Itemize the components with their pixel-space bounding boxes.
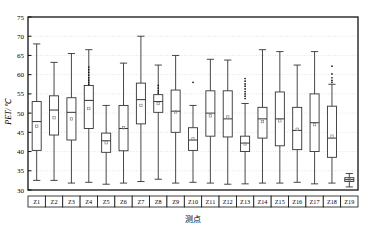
category-label-Z5: Z5 [103,198,110,205]
category-label-Z11: Z11 [205,198,215,205]
outlier-Z8-0 [157,85,159,87]
y-tick-label-55: 55 [17,90,25,98]
box-group-Z12[interactable] [223,60,232,184]
box-group-Z8[interactable] [154,65,163,179]
box-group-Z10[interactable] [188,82,197,183]
y-tick-label-30: 30 [17,187,25,195]
box-group-Z5[interactable] [102,105,111,184]
category-label-Z18: Z18 [327,198,337,205]
outlier-Z13-3 [244,85,246,87]
box-Z2 [50,96,59,135]
category-label-Z10: Z10 [188,198,198,205]
box-group-Z11[interactable] [206,59,215,183]
y-tick-label-60: 60 [17,71,25,79]
box-group-Z14[interactable] [258,50,267,183]
category-label-Z15: Z15 [275,198,285,205]
category-label-Z6: Z6 [120,198,127,205]
boxplot-figure: 30354045505560657075PET/℃Z1Z2Z3Z4Z5Z6Z7Z… [0,0,366,235]
outlier-Z13-0 [244,78,246,80]
y-tick-label-50: 50 [17,110,25,118]
outlier-Z18-0 [331,65,333,67]
outlier-Z4-0 [88,66,90,68]
outlier-Z13-4 [244,88,246,90]
category-label-Z13: Z13 [240,198,250,205]
category-label-Z2: Z2 [51,198,58,205]
x-axis-title: 测点 [185,215,201,224]
y-tick-label-45: 45 [17,129,25,137]
category-label-Z4: Z4 [85,198,92,205]
outlier-Z10-0 [192,82,194,84]
outlier-Z13-7 [244,95,246,97]
box-group-Z6[interactable] [119,63,128,183]
outlier-Z4-4 [88,77,90,79]
box-Z7 [136,83,145,124]
category-label-Z7: Z7 [137,198,144,205]
outlier-Z13-8 [244,98,246,100]
outlier-Z8-3 [157,92,159,94]
box-group-Z17[interactable] [310,52,319,184]
outlier-Z13-6 [244,93,246,95]
y-tick-label-35: 35 [17,167,25,175]
category-label-Z16: Z16 [292,198,302,205]
y-tick-label-65: 65 [17,52,25,60]
box-group-Z2[interactable] [50,62,59,180]
y-tick-label-40: 40 [17,148,25,156]
outlier-Z13-1 [244,80,246,82]
outlier-Z18-3 [331,80,333,82]
y-tick-label-75: 75 [17,14,25,22]
box-Z18 [327,106,336,157]
category-axis: Z1Z2Z3Z4Z5Z6Z7Z8Z9Z10Z11Z12Z13Z14Z15Z16Z… [28,196,358,207]
outlier-Z4-3 [88,74,90,76]
box-Z1 [32,102,41,151]
box-Z8 [154,95,163,113]
outlier-Z18-1 [331,73,333,75]
category-label-Z8: Z8 [155,198,162,205]
outlier-Z8-1 [157,87,159,89]
box-group-Z19[interactable] [345,173,354,186]
box-group-Z18[interactable] [327,65,336,183]
box-group-Z15[interactable] [275,52,284,183]
outlier-Z13-2 [244,83,246,85]
y-tick-label-70: 70 [17,33,25,41]
boxplot-svg: 30354045505560657075PET/℃Z1Z2Z3Z4Z5Z6Z7Z… [0,0,366,235]
box-Z13 [241,136,250,151]
category-label-Z1: Z1 [33,198,40,205]
outlier-Z4-6 [88,82,90,84]
box-group-Z1[interactable] [32,44,41,180]
category-label-Z14: Z14 [257,198,267,205]
box-Z5 [102,133,111,152]
outlier-Z13-5 [244,91,246,93]
category-label-Z3: Z3 [68,198,75,205]
category-label-Z12: Z12 [223,198,233,205]
outlier-Z4-7 [88,83,90,85]
box-Z16 [293,107,302,149]
y-axis: 30354045505560657075 [17,14,32,195]
category-label-Z19: Z19 [344,198,354,205]
category-label-Z17: Z17 [310,198,320,205]
box-group-Z3[interactable] [67,54,76,184]
outlier-Z4-5 [88,79,90,81]
box-group-Z7[interactable] [136,36,145,181]
outlier-Z4-2 [88,72,90,74]
box-Z10 [188,128,197,151]
category-label-Z9: Z9 [172,198,179,205]
box-Z3 [67,98,76,140]
box-Z12 [223,91,232,137]
outlier-Z18-4 [331,82,333,84]
y-axis-title: PET/℃ [4,98,13,125]
outlier-Z4-1 [88,69,90,71]
box-group-Z16[interactable] [293,65,302,182]
outlier-Z18-2 [331,77,333,79]
outlier-Z8-2 [157,90,159,92]
box-group-Z4[interactable] [84,50,93,183]
